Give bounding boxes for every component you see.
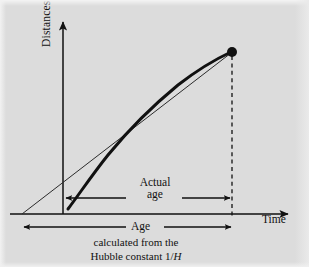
present-epoch-point <box>227 47 237 57</box>
actual-age-label-line2: age <box>147 188 163 200</box>
y-axis-label: Distances <box>40 0 52 47</box>
caption-hubble-constant-symbol: H <box>174 250 182 262</box>
x-axis-label: Time <box>262 213 286 225</box>
caption-line-1: calculated from the <box>94 236 179 248</box>
age-label: Age <box>131 220 150 232</box>
actual-age-label-line1: Actual <box>140 176 171 188</box>
hubble-age-diagram: Distances Time Actual age Age calculated… <box>0 0 309 267</box>
hubble-age-caption: calculated from the Hubble constant 1/H <box>56 236 216 264</box>
caption-line-2-prefix: Hubble constant 1/ <box>90 250 173 262</box>
actual-age-label: Actual age <box>131 176 179 201</box>
